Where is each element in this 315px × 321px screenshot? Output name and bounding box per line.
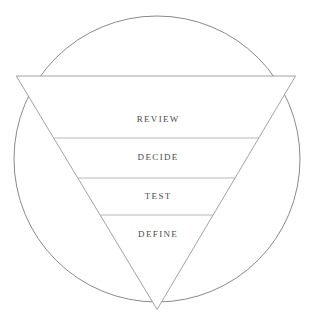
stage-label-define: DEFINE xyxy=(0,230,315,239)
stage-label-test: TEST xyxy=(0,192,315,201)
stage-label-review: REVIEW xyxy=(0,115,315,124)
stage-label-decide: DECIDE xyxy=(0,153,315,162)
funnel-diagram: REVIEW DECIDE TEST DEFINE xyxy=(0,0,315,321)
